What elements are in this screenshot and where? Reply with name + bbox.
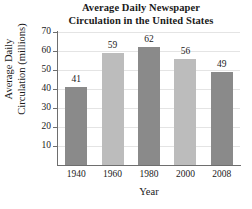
y-tick-mark — [53, 70, 58, 71]
bar-value-label: 56 — [170, 47, 200, 57]
x-tick-label: 2000 — [167, 169, 203, 179]
bar-chart-figure: Average Daily Newspaper Circulation in t… — [0, 0, 252, 209]
bar — [102, 53, 124, 165]
bar — [174, 59, 196, 165]
y-tick-label: 50 — [31, 65, 51, 75]
y-axis-label-line-1: Average Daily — [2, 4, 15, 134]
bar — [65, 87, 87, 165]
y-tick-mark — [53, 108, 58, 109]
y-tick-label: 20 — [31, 122, 51, 132]
chart-title: Average Daily Newspaper Circulation in t… — [34, 2, 248, 27]
y-tick-mark — [53, 89, 58, 90]
y-axis-label-line-2: Circulation (millions) — [15, 4, 28, 134]
x-tick-label: 2008 — [204, 169, 240, 179]
y-tick-label-group: 70605040302010 — [29, 0, 51, 209]
bar-value-label: 59 — [98, 41, 128, 51]
y-tick-label: 60 — [31, 46, 51, 56]
y-tick-label: 70 — [31, 27, 51, 37]
bar-value-label: 41 — [61, 75, 91, 85]
x-axis-line — [57, 165, 241, 166]
y-tick-mark — [53, 32, 58, 33]
bar — [211, 72, 233, 165]
chart-title-line-1: Average Daily Newspaper — [34, 2, 248, 15]
y-tick-label: 30 — [31, 103, 51, 113]
y-tick-mark — [53, 127, 58, 128]
bar-value-label: 49 — [207, 60, 237, 70]
bar-value-label: 62 — [134, 35, 164, 45]
x-tick-label: 1940 — [58, 169, 94, 179]
x-axis-label: Year — [58, 186, 240, 198]
chart-title-line-2: Circulation in the United States — [34, 15, 248, 28]
bar — [138, 47, 160, 165]
x-tick-label: 1980 — [131, 169, 167, 179]
bar-group — [58, 32, 240, 165]
y-tick-label: 10 — [31, 141, 51, 151]
x-tick-label: 1960 — [95, 169, 131, 179]
y-tick-mark — [53, 146, 58, 147]
y-tick-mark — [53, 51, 58, 52]
y-tick-label: 40 — [31, 84, 51, 94]
